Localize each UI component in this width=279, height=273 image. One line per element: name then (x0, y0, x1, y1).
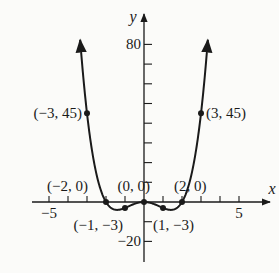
data-point (84, 110, 90, 116)
point-label: (−1, −3) (74, 217, 123, 234)
point-label: (2, 0) (174, 178, 207, 195)
x-tick-label: 5 (235, 205, 243, 221)
y-axis-label: y (127, 8, 137, 26)
point-label: (3, 45) (206, 105, 246, 122)
function-graph: −5580−20 (−3, 45)(−2, 0)(−1, −3)(0, 0)(1… (0, 0, 279, 273)
point-label: (−3, 45) (34, 105, 82, 122)
axis-ticks: −5580−20 (41, 36, 243, 249)
x-axis-label: x (267, 180, 275, 197)
data-point (160, 205, 166, 211)
axes (32, 14, 270, 262)
y-tick-label: 80 (126, 36, 141, 52)
data-point (198, 110, 204, 116)
data-point (141, 199, 147, 205)
labeled-points: (−3, 45)(−2, 0)(−1, −3)(0, 0)(1, −3)(2, … (34, 105, 246, 234)
point-label: (−2, 0) (47, 178, 88, 195)
point-label: (1, −3) (153, 217, 194, 234)
y-tick-label: −20 (118, 233, 141, 249)
data-point (122, 205, 128, 211)
data-point (103, 199, 109, 205)
point-label: (0, 0) (118, 178, 151, 195)
data-point (179, 199, 185, 205)
x-tick-label: −5 (41, 205, 57, 221)
